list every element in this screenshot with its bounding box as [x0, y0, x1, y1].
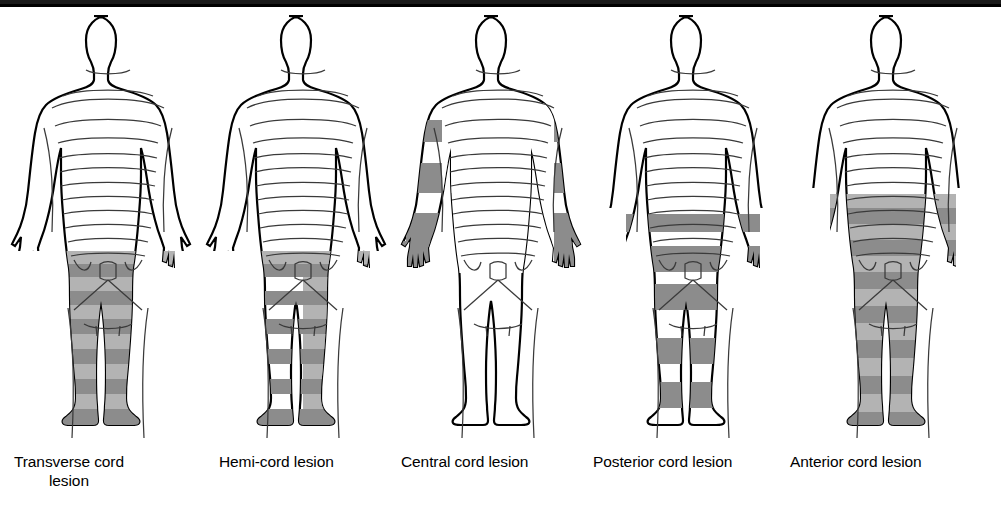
figure-posterior-cord-lesion [593, 8, 793, 453]
label-line-1: Transverse cord [14, 452, 124, 471]
label-anterior-cord-lesion: Anterior cord lesion [790, 452, 922, 471]
top-rule [0, 0, 1001, 7]
top-rule-inner [0, 0, 1001, 4]
label-line-1: Posterior cord lesion [593, 452, 732, 471]
figure-anterior-cord-lesion [793, 8, 993, 453]
label-line-1: Central cord lesion [401, 452, 528, 471]
label-line-1: Hemi-cord lesion [219, 452, 334, 471]
figure-hemi-cord-lesion [203, 8, 403, 453]
label-central-cord-lesion: Central cord lesion [401, 452, 528, 471]
figure-transverse-cord-lesion [8, 8, 208, 453]
label-row: Transverse cord lesion Hemi-cord lesion … [0, 452, 1001, 522]
label-posterior-cord-lesion: Posterior cord lesion [593, 452, 732, 471]
label-line-1: Anterior cord lesion [790, 452, 922, 471]
label-transverse-cord-lesion: Transverse cord lesion [14, 452, 124, 490]
label-hemi-cord-lesion: Hemi-cord lesion [219, 452, 334, 471]
figure-central-cord-lesion [398, 8, 598, 453]
label-line-2: lesion [14, 471, 124, 490]
figure-row [0, 8, 1001, 453]
